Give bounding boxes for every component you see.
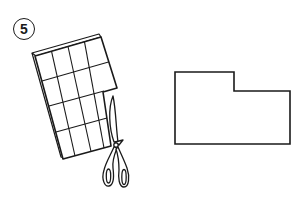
instruction-illustration: 5 [0, 0, 307, 202]
grid-paper [32, 34, 117, 159]
illustration-canvas [0, 0, 307, 202]
l-shape-outline [175, 72, 290, 144]
